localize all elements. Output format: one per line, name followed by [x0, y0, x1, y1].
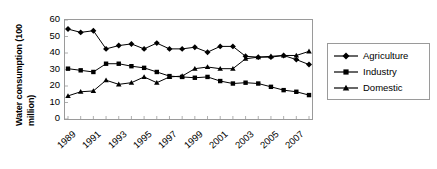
legend-item-agriculture[interactable]: Agriculture: [333, 48, 408, 64]
data-point: [281, 88, 285, 92]
series-industry: [66, 62, 311, 98]
data-point: [306, 62, 312, 68]
data-point: [193, 76, 197, 80]
diamond-marker-icon: [333, 49, 359, 63]
y-axis-tick-label: 20: [36, 80, 60, 90]
legend-label: Agriculture: [363, 51, 408, 61]
data-point: [116, 43, 122, 49]
series-domestic: [65, 49, 312, 98]
y-axis-tick-label: 40: [36, 47, 60, 57]
x-axis-tick-label: 1995: [129, 129, 154, 152]
x-axis-tick-label: 1997: [155, 129, 180, 152]
data-point: [218, 79, 222, 83]
data-point: [65, 26, 71, 32]
x-axis-tick-label: 2007: [281, 129, 306, 152]
data-point: [104, 62, 108, 66]
data-point: [231, 81, 235, 85]
data-point: [129, 64, 133, 68]
x-axis-tick-label: 1989: [53, 129, 78, 152]
data-point: [141, 74, 147, 79]
chart-legend: AgricultureIndustryDomestic: [327, 43, 430, 100]
y-axis-tick-label: 50: [36, 31, 60, 41]
triangle-marker-icon: [333, 81, 359, 95]
x-axis-tick-label: 2001: [205, 129, 230, 152]
data-point: [103, 77, 109, 82]
legend-item-domestic[interactable]: Domestic: [333, 80, 403, 96]
data-point: [294, 90, 298, 94]
y-axis-tick-label: 60: [36, 14, 60, 24]
data-point: [142, 66, 146, 70]
data-point: [128, 41, 134, 47]
square-marker-icon: [333, 65, 359, 79]
data-point: [192, 44, 198, 50]
data-point: [167, 46, 173, 52]
data-point: [103, 46, 109, 52]
x-axis-tick-label: 1993: [104, 129, 129, 152]
data-point: [205, 64, 211, 69]
y-axis-tick-label: 30: [36, 64, 60, 74]
x-axis-tick-label: 2005: [256, 129, 281, 152]
chart-series-svg: [65, 20, 312, 119]
plot-area: [64, 19, 313, 120]
data-point: [205, 49, 211, 55]
data-point: [205, 75, 209, 79]
data-point: [179, 46, 185, 52]
data-point: [256, 81, 260, 85]
legend-item-industry[interactable]: Industry: [333, 64, 397, 80]
data-point: [91, 70, 95, 74]
data-point: [78, 29, 84, 35]
data-point: [66, 66, 70, 70]
data-point: [269, 85, 273, 89]
data-point: [155, 70, 159, 74]
data-point: [141, 46, 147, 52]
x-axis-tick-label: 1991: [79, 129, 104, 152]
data-point: [307, 93, 311, 97]
chart-figure: Water consumption (100 million) 01020304…: [0, 0, 437, 169]
data-point: [217, 43, 223, 49]
data-point: [306, 49, 312, 54]
data-point: [90, 28, 96, 34]
legend-label: Domestic: [363, 83, 403, 93]
x-axis-tick-label: 2003: [231, 129, 256, 152]
legend-label: Industry: [363, 67, 397, 77]
data-point: [154, 40, 160, 46]
data-point: [117, 62, 121, 66]
x-axis-tick-labels: 1989199119931995199719992001200320052007: [0, 120, 330, 169]
data-point: [78, 68, 82, 72]
axis-ticks: [65, 20, 309, 119]
y-axis-label-line-1: Water consumption (100: [14, 24, 24, 126]
series-agriculture: [65, 26, 312, 67]
data-point: [243, 81, 247, 85]
x-axis-tick-label: 1999: [180, 129, 205, 152]
y-axis-tick-label: 10: [36, 97, 60, 107]
